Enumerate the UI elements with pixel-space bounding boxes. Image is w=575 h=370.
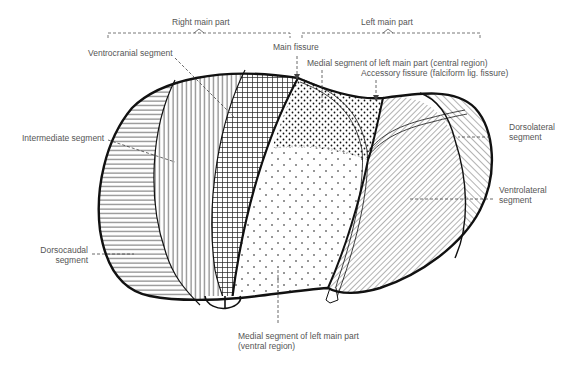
label-right-main-part: Right main part (172, 17, 230, 27)
bracket-left-main-part (302, 33, 480, 40)
label-dorsocaudal-segment: Dorsocaudal segment (38, 245, 88, 265)
label-medial-central: Medial segment of left main part (centra… (307, 58, 487, 68)
label-intermediate-segment: Intermediate segment (22, 133, 104, 143)
label-main-fissure: Main fissure (273, 42, 319, 52)
label-ventrolateral-line2: segment (499, 195, 547, 205)
label-ventrolateral-line1: Ventrolateral (499, 185, 547, 195)
label-dorsolateral-segment: Dorsolateral segment (509, 122, 555, 142)
label-dorsocaudal-line1: Dorsocaudal (38, 245, 88, 255)
label-dorsolateral-line1: Dorsolateral (509, 122, 555, 132)
label-medial-ventral: Medial segment of left main part (ventra… (238, 331, 359, 351)
brackets (108, 29, 480, 40)
label-medial-ventral-line1: Medial segment of left main part (238, 331, 359, 341)
label-ventrocranial-segment: Ventrocranial segment (88, 48, 173, 58)
label-left-main-part: Left main part (361, 17, 413, 27)
label-dorsolateral-line2: segment (509, 132, 555, 142)
bracket-right-main-part (108, 33, 290, 38)
liver-segments (90, 70, 494, 305)
label-ventrolateral-segment: Ventrolateral segment (499, 185, 547, 205)
label-dorsocaudal-line2: segment (38, 255, 88, 265)
label-medial-ventral-line2: (ventral region) (238, 341, 359, 351)
label-accessory-fissure: Accessory fissure (falciform lig. fissur… (361, 68, 508, 78)
liver-diagram (0, 0, 575, 370)
